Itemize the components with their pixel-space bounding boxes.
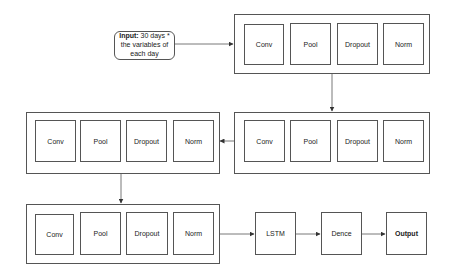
norm-layer-2: Norm (383, 120, 424, 162)
conv-layer-1: Conv (244, 24, 284, 65)
dense-layer: Dence (321, 212, 362, 255)
input-node: Input: 30 days * the variables of each d… (114, 31, 175, 60)
lstm-layer: LSTM (255, 212, 296, 255)
pool-layer-4: Pool (80, 212, 121, 255)
pool-layer-1: Pool (290, 23, 331, 65)
output-node: Output (386, 212, 427, 255)
dropout-layer-2: Dropout (337, 120, 378, 162)
dropout-layer-1: Dropout (337, 23, 378, 65)
norm-layer-1: Norm (383, 23, 424, 65)
dropout-layer-3: Dropout (126, 120, 167, 162)
conv-layer-2: Conv (244, 120, 285, 162)
pool-layer-2: Pool (290, 120, 331, 162)
input-label-bold: Input: (119, 32, 138, 39)
conv-layer-3: Conv (35, 120, 76, 162)
dropout-layer-4: Dropout (126, 212, 168, 255)
pool-layer-3: Pool (80, 120, 121, 162)
norm-layer-4: Norm (173, 212, 214, 255)
conv-layer-4: Conv (35, 214, 74, 255)
norm-layer-3: Norm (173, 120, 214, 162)
